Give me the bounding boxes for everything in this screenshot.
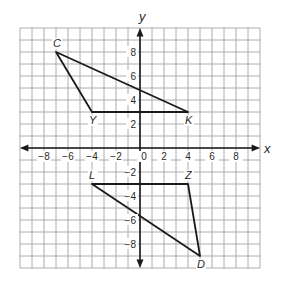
x-tick-label: −2 [110, 151, 122, 162]
y-tick-label: −4 [125, 191, 137, 202]
coordinate-plane: xy−8−6−4−2024688642−2−4−6−8CYKLZD [0, 0, 282, 289]
arrow-up-icon [137, 28, 144, 36]
x-tick-label: 8 [233, 151, 239, 162]
arrow-right-icon [252, 145, 260, 152]
vertex-label-Y: Y [89, 114, 97, 126]
y-tick-label: −6 [125, 215, 137, 226]
y-tick-label: 4 [130, 95, 136, 106]
vertex-label-L: L [89, 169, 95, 181]
y-tick-label: 6 [130, 71, 136, 82]
vertex-label-D: D [197, 258, 205, 270]
y-tick-label: 2 [130, 119, 136, 130]
arrow-down-icon [137, 260, 144, 268]
vertex-label-C: C [53, 37, 61, 49]
vertex-label-Z: Z [184, 169, 193, 181]
vertex-label-K: K [185, 114, 193, 126]
arrow-left-icon [20, 145, 28, 152]
x-tick-label: −6 [62, 151, 74, 162]
y-axis-label: y [138, 9, 147, 24]
y-tick-label: −2 [125, 167, 137, 178]
y-tick-label: −8 [125, 239, 137, 250]
x-tick-label: 4 [185, 151, 191, 162]
y-tick-label: 8 [130, 47, 136, 58]
x-tick-label: 2 [161, 151, 167, 162]
x-tick-label: 0 [141, 151, 147, 162]
x-axis-label: x [263, 141, 271, 156]
x-tick-label: −4 [86, 151, 98, 162]
x-tick-label: −8 [38, 151, 50, 162]
x-tick-label: 6 [209, 151, 215, 162]
triangle [56, 52, 188, 112]
